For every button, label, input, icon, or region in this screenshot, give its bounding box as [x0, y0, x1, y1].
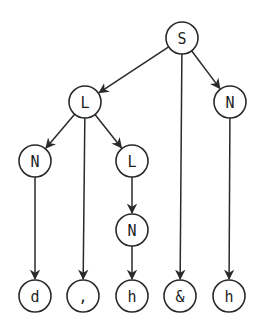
node-label: N	[225, 94, 234, 112]
node-label: &	[175, 288, 184, 306]
node-label: N	[127, 222, 136, 240]
tree-node: N	[19, 145, 51, 177]
tree-node: L	[69, 86, 101, 118]
tree-node: h	[213, 280, 245, 312]
node-label: h	[224, 288, 233, 306]
edge-arrow	[95, 115, 121, 148]
node-label: S	[177, 30, 186, 48]
node-label: ,	[78, 288, 87, 306]
edge-arrow	[229, 118, 230, 279]
tree-node: d	[19, 280, 51, 312]
node-label: L	[127, 153, 136, 171]
tree-node: S	[166, 22, 198, 54]
tree-node: N	[116, 214, 148, 246]
tree-diagram: SLNNLNd,h&h	[0, 0, 264, 332]
tree-node: N	[214, 86, 246, 118]
node-label: N	[30, 153, 39, 171]
edge-arrow	[192, 51, 220, 89]
tree-node: h	[116, 280, 148, 312]
edge-arrow	[46, 114, 75, 148]
node-label: L	[80, 94, 89, 112]
tree-node: &	[164, 280, 196, 312]
edge-arrow	[180, 54, 182, 279]
node-label: d	[30, 288, 39, 306]
tree-node: L	[116, 145, 148, 177]
edge-arrow	[99, 47, 168, 93]
tree-node: ,	[67, 280, 99, 312]
edge-arrow	[83, 118, 85, 279]
node-label: h	[127, 288, 136, 306]
